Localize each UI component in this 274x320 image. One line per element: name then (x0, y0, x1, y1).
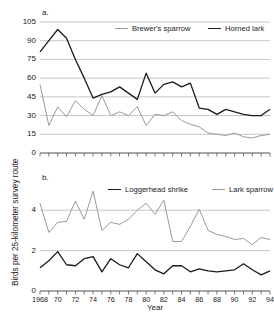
panel-a-letter: a. (42, 8, 49, 17)
y-axis-tick-label: 2 (10, 247, 36, 255)
bird-survey-figure: Birds per 25-kilometer survey route a. B… (0, 0, 274, 320)
legend-label-loggerhead-shrike: Loggerhead shrike (125, 185, 188, 194)
y-axis-tick-label: 30 (10, 112, 36, 120)
panel-a: a. Brewer's sparrow Horned lark 01530456… (40, 22, 270, 153)
legend-label-brewers-sparrow: Brewer's sparrow (132, 24, 190, 33)
legend-swatch-brewers-sparrow (115, 28, 128, 29)
legend-label-lark-sparrow: Lark sparrow (229, 185, 273, 194)
panel-a-plot-area (40, 22, 270, 153)
panel-b-letter: b. (42, 173, 49, 182)
panel-a-svg (40, 22, 270, 153)
legend-item-horned-lark: Horned lark (208, 24, 264, 33)
y-axis-tick-label: 45 (10, 93, 36, 101)
x-axis-title: Year (40, 303, 270, 312)
legend-item-lark-sparrow: Lark sparrow (212, 185, 273, 194)
y-axis-tick-label: 90 (10, 37, 36, 45)
y-axis-tick-label: 0 (10, 287, 36, 295)
legend-label-horned-lark: Horned lark (225, 24, 264, 33)
y-axis-tick-label: 60 (10, 74, 36, 82)
y-axis-tick-label: 4 (10, 206, 36, 214)
y-axis-tick-label: 105 (10, 18, 36, 26)
series-line-lark-sparrow (40, 191, 270, 245)
legend-swatch-lark-sparrow (212, 189, 225, 190)
panel-b-plot-area (40, 186, 270, 291)
panel-b: b. Loggerhead shrike Lark sparrow 024196… (40, 186, 270, 291)
legend-item-loggerhead-shrike: Loggerhead shrike (108, 185, 188, 194)
legend-item-brewers-sparrow: Brewer's sparrow (115, 24, 190, 33)
y-axis-tick-label: 15 (10, 130, 36, 138)
legend-swatch-horned-lark (208, 28, 221, 29)
y-axis-tick-label: 75 (10, 55, 36, 63)
series-line-loggerhead-shrike (40, 252, 270, 275)
y-axis-tick-label: 0 (10, 149, 36, 157)
legend-swatch-loggerhead-shrike (108, 189, 121, 190)
panel-b-svg (40, 186, 270, 291)
y-axis-title: Birds per 25-kilometer survey route (11, 159, 20, 286)
